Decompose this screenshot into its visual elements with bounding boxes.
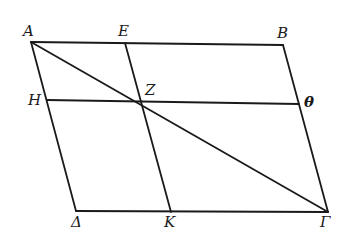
- label-A: A: [23, 24, 34, 39]
- label-theta: θ: [304, 95, 314, 110]
- side-DeltaA: [31, 42, 76, 211]
- side-BGamma: [283, 45, 328, 212]
- side-GammaDelta: [76, 211, 328, 212]
- label-delta: Δ: [71, 215, 82, 230]
- label-K: K: [164, 215, 175, 230]
- figure-canvas: [0, 0, 352, 245]
- label-Z: Z: [145, 83, 155, 98]
- label-gamma: Γ: [320, 215, 330, 230]
- geometry-figure: A E B H Z θ Δ K Γ: [0, 0, 352, 245]
- label-B: B: [277, 26, 288, 41]
- side-AB: [31, 42, 283, 45]
- line-HTheta: [47, 100, 299, 104]
- label-H: H: [28, 93, 41, 108]
- line-EK: [125, 43, 171, 212]
- diagonal-AGamma: [31, 42, 328, 212]
- label-E: E: [118, 24, 129, 39]
